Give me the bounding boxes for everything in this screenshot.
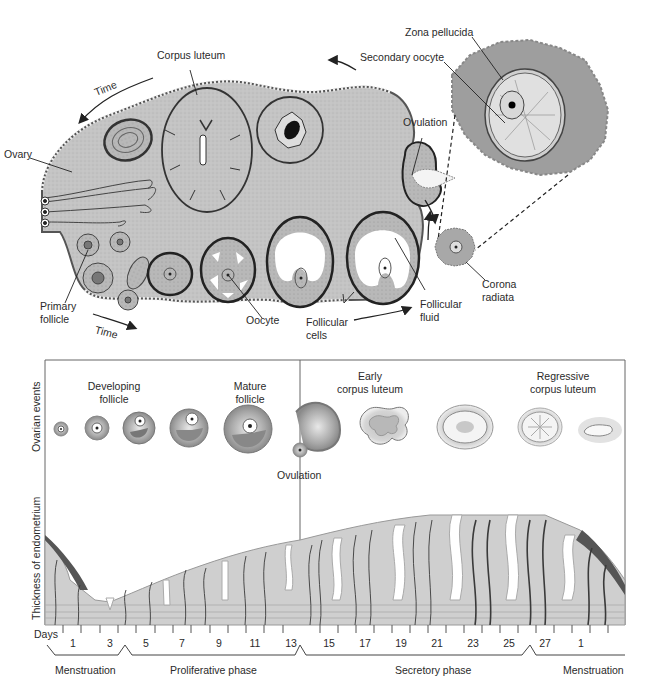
days-axis-label: Days xyxy=(34,628,58,640)
label-primary-follicle-1: Primary xyxy=(40,300,76,312)
day-tick-label: 1 xyxy=(571,637,591,649)
day-ticks xyxy=(63,625,608,633)
stage-developing-2: follicle xyxy=(82,393,146,405)
row-label-ovarian-events: Ovarian events xyxy=(30,381,42,452)
row-label-thickness: Thickness of endometrium xyxy=(30,497,42,620)
stage-mature-1: Mature xyxy=(225,380,275,392)
secondary-follicle xyxy=(148,253,192,295)
label-secondary-oocyte: Secondary oocyte xyxy=(360,51,444,63)
day-tick-label: 27 xyxy=(535,637,555,649)
day-tick-label: 11 xyxy=(245,637,265,649)
day-tick-label: 13 xyxy=(281,637,301,649)
tertiary-follicle xyxy=(201,238,255,302)
label-follicular-cells-2: cells xyxy=(306,329,327,341)
corpus-luteum-regressing xyxy=(257,97,323,163)
label-follicular-fluid-2: fluid xyxy=(420,311,439,323)
day-tick-label: 25 xyxy=(499,637,519,649)
ovarian-event-corpus-luteum xyxy=(360,405,622,449)
day-tick-label: 1 xyxy=(63,637,83,649)
stage-early-cl-2: corpus luteum xyxy=(330,383,410,395)
day-tick-label: 3 xyxy=(100,637,120,649)
reproductive-cycle-artwork xyxy=(0,0,647,688)
day-tick-label: 21 xyxy=(427,637,447,649)
antral-follicle xyxy=(267,217,333,307)
label-ovary: Ovary xyxy=(4,148,32,160)
corona-radiata xyxy=(435,228,475,266)
stage-early-cl-1: Early xyxy=(330,370,410,382)
day-tick-label: 19 xyxy=(391,637,411,649)
day-tick-label: 17 xyxy=(355,637,375,649)
phase-secretory: Secretory phase xyxy=(395,664,471,676)
stage-regressive-cl-2: corpus luteum xyxy=(523,383,603,395)
label-oocyte: Oocyte xyxy=(246,314,279,326)
label-zona-pellucida: Zona pellucida xyxy=(405,26,473,38)
label-corpus-luteum: Corpus luteum xyxy=(157,49,225,61)
ovarian-event-follicles xyxy=(54,403,340,457)
label-ovulation-top: Ovulation xyxy=(403,116,447,128)
hilum-vessel-ends xyxy=(41,197,49,227)
day-tick-label: 15 xyxy=(319,637,339,649)
stage-regressive-cl-1: Regressive xyxy=(523,370,603,382)
endometrium xyxy=(45,515,625,625)
stage-ovulation: Ovulation xyxy=(277,469,321,481)
corpus-luteum xyxy=(162,88,252,212)
mature-follicle xyxy=(347,212,419,304)
phase-menstruation-2: Menstruation xyxy=(563,664,624,676)
stage-developing-1: Developing xyxy=(82,380,146,392)
day-tick-label: 7 xyxy=(172,637,192,649)
label-follicular-cells-1: Follicular xyxy=(306,316,348,328)
phase-proliferative: Proliferative phase xyxy=(170,664,257,676)
label-corona-radiata-1: Corona xyxy=(482,278,516,290)
day-tick-label: 9 xyxy=(209,637,229,649)
phase-menstruation-1: Menstruation xyxy=(55,664,116,676)
label-primary-follicle-2: follicle xyxy=(40,313,69,325)
stage-mature-2: follicle xyxy=(225,393,275,405)
day-tick-label: 5 xyxy=(136,637,156,649)
secondary-oocyte-magnified xyxy=(452,40,608,175)
label-follicular-fluid-1: Follicular xyxy=(420,298,462,310)
label-corona-radiata-2: radiata xyxy=(482,291,514,303)
day-tick-label: 23 xyxy=(463,637,483,649)
